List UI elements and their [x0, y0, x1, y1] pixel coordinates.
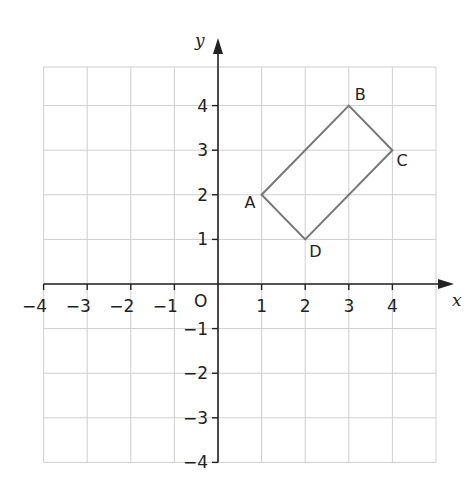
x-tick-label: 1 — [256, 296, 267, 316]
y-tick-label: −1 — [183, 319, 208, 339]
x-axis-arrow-icon — [438, 279, 454, 289]
x-tick-label: −3 — [66, 296, 91, 316]
vertex-label-a: A — [245, 193, 256, 212]
y-axis-label: y — [194, 30, 205, 50]
x-tick-label: −1 — [153, 296, 178, 316]
rectangle-abcd — [262, 106, 393, 240]
vertex-label-d: D — [309, 242, 321, 261]
y-tick-label: −3 — [183, 408, 208, 428]
y-tick-label: −4 — [183, 452, 208, 472]
y-tick-label: 4 — [197, 96, 208, 116]
x-axis-label: x — [452, 290, 462, 310]
x-tick-label: −4 — [22, 296, 47, 316]
coordinate-plane: −4−3−2−112344321−1−2−3−4 ABCD x y O — [0, 0, 474, 490]
vertex-label-c: C — [396, 151, 407, 170]
x-tick-label: 3 — [343, 296, 354, 316]
y-tick-label: 3 — [197, 140, 208, 160]
grid — [44, 67, 436, 462]
x-tick-label: −2 — [109, 296, 134, 316]
y-axis-arrow-icon — [213, 38, 223, 54]
vertex-label-b: B — [355, 85, 366, 104]
y-tick-label: −2 — [183, 363, 208, 383]
y-tick-label: 1 — [197, 229, 208, 249]
vertex-labels: ABCD — [245, 85, 408, 262]
x-tick-label: 4 — [387, 296, 398, 316]
x-tick-label: 2 — [300, 296, 311, 316]
origin-label: O — [194, 291, 207, 311]
y-tick-label: 2 — [197, 185, 208, 205]
